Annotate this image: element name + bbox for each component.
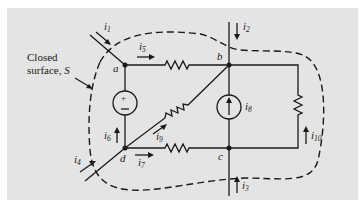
surface-label-line1: Closed: [27, 51, 58, 63]
i7-label: i7: [138, 156, 145, 170]
current-source-arrow-head: [226, 97, 232, 103]
circuit-diagram: + a b c d Closed surface, S i1 i2 i3 i4 …: [0, 0, 363, 210]
i3-label: i3: [242, 179, 249, 193]
i2-label: i2: [243, 20, 250, 34]
node-b-dot: [227, 63, 232, 68]
resistor-dc: [125, 144, 229, 152]
node-a-dot: [123, 63, 128, 68]
surface-pointer-line: [75, 78, 90, 87]
node-a-label: a: [113, 62, 119, 74]
surface-label-line2: surface, S: [27, 64, 70, 76]
i9-label: i9: [156, 130, 163, 144]
i8-label: i8: [245, 100, 252, 114]
resistor-right: [229, 65, 302, 148]
i2-arrow-head: [234, 34, 240, 40]
resistor-db: [125, 65, 229, 148]
i10-label: i10: [311, 129, 322, 143]
resistor-ab: [125, 61, 229, 69]
node-d-label: d: [120, 152, 126, 164]
voltage-plus: +: [121, 93, 126, 103]
node-c-label: c: [218, 150, 223, 162]
node-b-label: b: [217, 50, 223, 62]
i5-arrow-head: [149, 54, 155, 60]
i4-label: i4: [74, 153, 81, 167]
i10-arrow-head: [303, 126, 309, 132]
node-d-dot: [123, 146, 128, 151]
i6-arrow-head: [114, 127, 120, 133]
i5-label: i5: [139, 40, 146, 54]
node-c-dot: [227, 146, 232, 151]
i6-label: i6: [104, 129, 111, 143]
i7-arrow-head: [148, 152, 154, 158]
closed-surface-boundary: [89, 32, 324, 190]
i1-label: i1: [104, 20, 111, 34]
